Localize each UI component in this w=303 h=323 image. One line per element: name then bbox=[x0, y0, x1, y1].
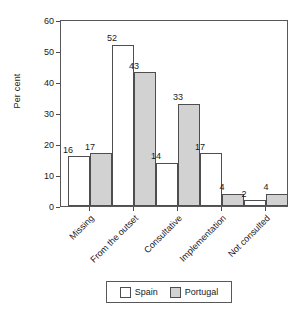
bar-portugal-missing[interactable] bbox=[90, 153, 112, 206]
legend-entry-portugal[interactable]: Portugal bbox=[170, 287, 219, 298]
y-tick-label-60: 60 bbox=[32, 17, 54, 26]
bar-value-spain-from-the-outset: 52 bbox=[100, 34, 124, 43]
x-tick-mark-3 bbox=[177, 207, 178, 211]
legend-swatch-portugal-icon bbox=[170, 287, 181, 298]
bar-portugal-consultative[interactable] bbox=[178, 104, 200, 207]
x-tick-mark-2 bbox=[133, 207, 134, 211]
legend-swatch-spain-icon bbox=[120, 287, 131, 298]
bar-value-spain-consultative: 14 bbox=[144, 152, 168, 161]
x-tick-mark-1 bbox=[89, 207, 90, 211]
y-tick-label-50: 50 bbox=[32, 48, 54, 57]
y-tick-label-0: 0 bbox=[32, 203, 54, 212]
legend-entry-spain[interactable]: Spain bbox=[120, 287, 158, 298]
y-tick-label-40: 40 bbox=[32, 79, 54, 88]
y-tick-mark-0 bbox=[56, 207, 60, 208]
legend-label-portugal: Portugal bbox=[185, 288, 219, 297]
chart-legend: Spain Portugal bbox=[106, 281, 232, 303]
bar-value-portugal-not-consulted: 4 bbox=[254, 183, 278, 192]
bar-chart-figure: Per cent 0 10 20 30 40 50 60 16 17 52 43… bbox=[0, 0, 303, 323]
bar-spain-missing[interactable] bbox=[68, 156, 90, 206]
bar-value-spain-not-consulted: 2 bbox=[232, 190, 256, 199]
bar-value-spain-implementation: 17 bbox=[188, 143, 212, 152]
bar-value-spain-missing: 16 bbox=[56, 146, 80, 155]
bar-spain-not-consulted[interactable] bbox=[244, 200, 266, 206]
y-tick-label-20: 20 bbox=[32, 141, 54, 150]
bar-portugal-from-the-outset[interactable] bbox=[134, 72, 156, 206]
bar-spain-consultative[interactable] bbox=[156, 163, 178, 207]
bar-value-portugal-implementation: 4 bbox=[210, 183, 234, 192]
bar-value-portugal-consultative: 33 bbox=[166, 93, 190, 102]
bar-portugal-not-consulted[interactable] bbox=[266, 194, 288, 206]
plot-area bbox=[60, 20, 288, 207]
x-tick-mark-5 bbox=[265, 207, 266, 211]
bar-value-portugal-missing: 17 bbox=[78, 143, 102, 152]
x-tick-mark-4 bbox=[221, 207, 222, 211]
bar-spain-implementation[interactable] bbox=[200, 153, 222, 206]
y-tick-label-30: 30 bbox=[32, 110, 54, 119]
bar-value-portugal-from-the-outset: 43 bbox=[122, 62, 146, 71]
y-axis-label: Per cent bbox=[12, 46, 22, 136]
legend-label-spain: Spain bbox=[135, 288, 158, 297]
y-tick-label-10: 10 bbox=[32, 172, 54, 181]
